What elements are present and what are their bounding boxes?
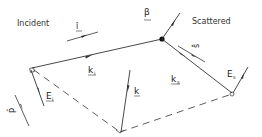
- s-hat-arrow: ŝ: [178, 44, 205, 62]
- p-hat-arrow: p̂: [6, 95, 29, 126]
- svg-text:s: s: [233, 74, 236, 80]
- scattering-diagram: Incident Scattered î k i β ŝ k s: [0, 0, 262, 137]
- scattered-label: Scattered: [192, 17, 231, 26]
- i-hat-label: î: [75, 22, 79, 31]
- E-i-vector: E i: [30, 68, 54, 106]
- beta-label: β: [144, 7, 150, 17]
- beta-vector: β: [144, 7, 180, 39]
- k-label: k: [134, 86, 140, 96]
- dashed-line-right: [120, 94, 232, 132]
- p-hat-label: p̂: [6, 108, 16, 113]
- s-hat-label: ŝ: [191, 44, 201, 48]
- k-i-vector: k i: [32, 39, 162, 76]
- i-hat-arrow: î: [67, 22, 98, 41]
- incident-label: Incident: [17, 19, 49, 28]
- k-vector: k: [120, 0, 162, 132]
